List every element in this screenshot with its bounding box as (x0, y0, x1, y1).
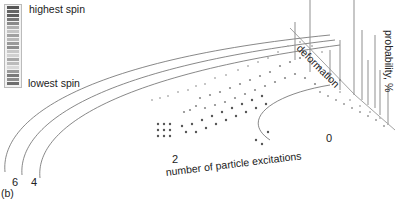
panel-label: (b) (1, 187, 14, 199)
tick-0: 0 (326, 132, 332, 144)
legend-swatch (7, 74, 19, 77)
legend-swatch (7, 18, 19, 21)
legend-swatch (7, 78, 19, 81)
legend-swatch (7, 6, 19, 9)
legend-swatch (7, 58, 19, 61)
legend-swatch (7, 26, 19, 29)
spin-color-legend (4, 4, 22, 88)
legend-swatch (7, 50, 19, 53)
legend-swatch (7, 54, 19, 57)
legend-label-lowest-spin: lowest spin (28, 77, 80, 89)
legend-swatch (7, 62, 19, 65)
legend-swatch (7, 70, 19, 73)
figure-panel: highest spin lowest spin deformation pro… (0, 0, 398, 199)
legend-swatch (7, 30, 19, 33)
tick-4: 4 (31, 176, 37, 188)
legend-swatch (7, 22, 19, 25)
legend-swatch (7, 42, 19, 45)
legend-swatch (7, 10, 19, 13)
probability-axis-label: probability, % (383, 30, 395, 92)
legend-label-highest-spin: highest spin (29, 3, 85, 15)
legend-swatch (7, 14, 19, 17)
legend-swatch (7, 34, 19, 37)
legend-swatch (7, 82, 19, 85)
tick-2: 2 (172, 153, 178, 165)
legend-swatch (7, 66, 19, 69)
legend-swatch (7, 38, 19, 41)
legend-swatch (7, 46, 19, 49)
